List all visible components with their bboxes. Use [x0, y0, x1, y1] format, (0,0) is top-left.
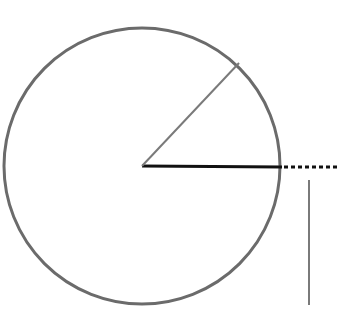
circle-diagram [0, 0, 353, 313]
angled-radius-line [142, 63, 239, 166]
radius-line [142, 166, 282, 167]
